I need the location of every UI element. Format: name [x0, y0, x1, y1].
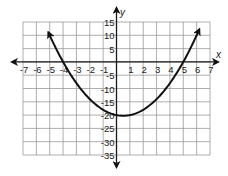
x-tick-label: 5	[182, 64, 187, 75]
x-tick-label: 1	[128, 64, 133, 75]
y-tick-label: 10	[104, 30, 115, 41]
y-tick-label: -30	[101, 137, 115, 148]
x-axis-label: x	[215, 49, 222, 60]
x-tick-label: -5	[46, 64, 54, 75]
parabola-graph: -7-6-5-4-3-2-1123456715105-5-10-15-20-25…	[0, 0, 228, 176]
x-tick-label: 3	[155, 64, 160, 75]
y-tick-label: -35	[101, 150, 115, 161]
parabola-curve	[48, 29, 199, 115]
x-tick-label: 4	[168, 64, 173, 75]
x-tick-label: 2	[142, 64, 147, 75]
y-tick-label: -15	[101, 97, 115, 108]
y-tick-label: 5	[109, 44, 114, 55]
parabola-path	[48, 29, 199, 115]
x-tick-label: -6	[33, 64, 41, 75]
x-tick-label: 7	[208, 64, 213, 75]
y-tick-label: -10	[101, 84, 115, 95]
y-tick-label: 15	[104, 17, 115, 28]
y-tick-label: -25	[101, 123, 115, 134]
y-axis-label: y	[119, 7, 126, 18]
x-tick-label: 6	[195, 64, 200, 75]
axes	[12, 8, 218, 167]
y-tick-label: -5	[106, 70, 114, 81]
x-tick-label: -7	[20, 64, 28, 75]
x-tick-label: -2	[87, 64, 95, 75]
x-tick-label: -3	[73, 64, 81, 75]
